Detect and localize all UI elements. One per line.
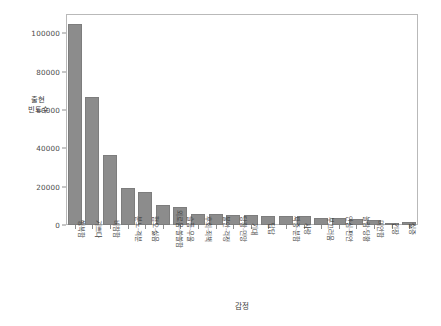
y-axis-title: 출현 빈도수 [14, 95, 62, 114]
bars-container [66, 14, 418, 225]
x-axis-tick-label: 분노·격분 [133, 216, 140, 243]
x-axis-tick-label: 싫증 [408, 223, 415, 235]
x-axis-tick-label: 미안함 [376, 220, 383, 238]
x-axis-tick-label: 기쁘다 [94, 220, 101, 238]
x-axis-tick-labels: 행복함기쁘다비참함분노·격분혐오·싫음외로움·쓸쓸함슬픔·우울후회·죄책불안·걱… [66, 229, 418, 295]
x-axis-tick-mark [233, 225, 234, 229]
x-axis-tick-mark [145, 225, 146, 229]
y-axis-title-line2: 빈도수 [14, 105, 62, 115]
x-axis-tick-label: 놀람·당황 [362, 216, 369, 243]
x-axis-tick-label: 기대 [249, 223, 256, 235]
y-axis-tick-label: 0 [55, 221, 60, 230]
x-axis-tick-mark [163, 225, 164, 229]
x-axis-tick-mark [356, 225, 357, 229]
x-axis-tick-label: 사랑 [302, 223, 309, 235]
x-axis-tick-label: 부끄러움 [326, 217, 333, 241]
x-axis-tick-mark [198, 225, 199, 229]
bar [68, 24, 82, 225]
y-axis-title-line1: 출현 [14, 95, 62, 105]
x-axis-tick-label: 후회·죄책 [204, 216, 211, 243]
x-axis-tick-label: 행복함 [77, 220, 84, 238]
x-axis-tick-label: 짜증·분함 [292, 216, 299, 243]
x-axis-tick-label: 안심·편안 [345, 216, 352, 243]
x-axis-title: 감정 [66, 300, 418, 311]
x-axis-tick-mark [286, 225, 287, 229]
x-axis-tick-label: 답답 [267, 223, 274, 235]
x-axis-tick-mark [216, 225, 217, 229]
bar [85, 97, 99, 225]
y-axis: 020000400006000080000100000 [0, 0, 66, 240]
x-axis-tick-label: 슬픔·우울 [186, 216, 193, 243]
y-axis-tick-label: 80000 [36, 67, 60, 76]
bar [103, 155, 117, 225]
y-axis-tick-label: 40000 [36, 144, 60, 153]
x-axis-tick-label: 당황·민망 [239, 216, 246, 243]
x-axis-tick-label: 혐오·싫음 [151, 216, 158, 243]
x-axis-tick-mark [128, 225, 129, 229]
x-axis-tick-label: 긴장 [390, 223, 397, 235]
y-axis-tick-label: 100000 [31, 29, 60, 38]
x-axis-tick-mark [339, 225, 340, 229]
x-axis-tick-mark [75, 225, 76, 229]
bar [121, 188, 135, 225]
x-axis-tick-mark [321, 225, 322, 229]
bar-chart-figure: 020000400006000080000100000 출현 빈도수 행복함기쁘… [0, 0, 441, 326]
y-axis-tick-label: 20000 [36, 182, 60, 191]
x-axis-tick-label: 불안·걱정 [221, 216, 228, 243]
x-axis-tick-label: 비참함 [112, 220, 119, 238]
x-axis-tick-label: 외로움·쓸쓸함 [175, 210, 182, 249]
